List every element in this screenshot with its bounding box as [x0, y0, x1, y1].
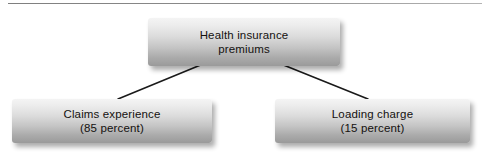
node-left-label: Claims experience (85 percent) — [63, 107, 160, 136]
node-root-label-line2: premiums — [200, 42, 289, 57]
node-loading-charge: Loading charge (15 percent) — [275, 99, 470, 143]
connector-root-to-right — [281, 64, 368, 99]
node-right-label: Loading charge (15 percent) — [332, 107, 413, 136]
diagram-canvas: Health insurance premiums Claims experie… — [0, 0, 484, 163]
connector-root-to-left — [118, 64, 203, 99]
node-root-label-line1: Health insurance — [200, 28, 289, 43]
node-claims-experience: Claims experience (85 percent) — [12, 99, 212, 143]
node-left-label-line2: (85 percent) — [63, 121, 160, 136]
node-left-label-line1: Claims experience — [63, 107, 160, 122]
node-health-insurance-premiums: Health insurance premiums — [148, 18, 340, 66]
node-root-label: Health insurance premiums — [200, 28, 289, 57]
node-right-label-line1: Loading charge — [332, 107, 413, 122]
node-right-label-line2: (15 percent) — [332, 121, 413, 136]
